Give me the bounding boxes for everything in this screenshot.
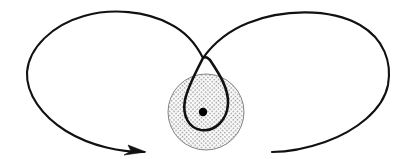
trajectory-diagram: [0, 0, 407, 159]
central-body-dot: [199, 108, 207, 116]
figure-container: Looping trajectory about a central body …: [0, 0, 407, 159]
